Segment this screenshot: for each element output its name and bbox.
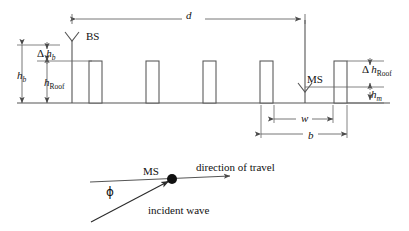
building-4	[260, 61, 273, 103]
label-ms-bottom: MS	[143, 166, 159, 177]
label-ms-top: MS	[307, 74, 323, 85]
label-h-roof: hRoof	[44, 77, 65, 88]
ms-position-dot	[167, 174, 177, 184]
building-1	[89, 61, 102, 103]
bs-antenna-icon	[65, 32, 79, 41]
label-h-m: hm	[371, 89, 382, 100]
bs-antenna-group	[65, 32, 79, 103]
figure-root: hb Δ hb hRoof BS d MS Δ hRoof hm w b MS …	[0, 0, 409, 231]
label-bs: BS	[86, 31, 99, 42]
label-d: d	[186, 10, 192, 21]
direction-of-travel-arrow	[90, 176, 230, 182]
ms-antenna-group	[298, 20, 312, 103]
building-2	[146, 61, 159, 103]
label-b: b	[308, 130, 314, 141]
label-w: w	[301, 113, 308, 124]
label-delta-h-b: Δ hb	[37, 48, 55, 59]
geometry-drawing	[0, 0, 409, 231]
label-h-b: hb	[17, 70, 26, 81]
label-phi-angle: ϕ	[106, 186, 114, 198]
label-direction-of-travel: direction of travel	[196, 162, 275, 173]
building-5	[334, 61, 347, 103]
building-3	[203, 61, 216, 103]
label-incident-wave: incident wave	[148, 205, 209, 216]
label-delta-h-roof: Δ hRoof	[362, 64, 392, 75]
